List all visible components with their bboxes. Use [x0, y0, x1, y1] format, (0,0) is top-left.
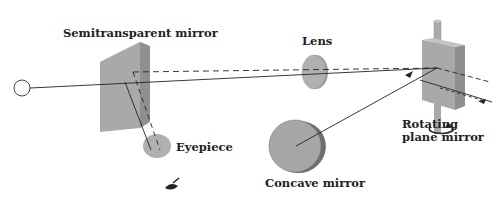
label-rotating-line2: plane mirror: [402, 131, 484, 144]
concave-mirror: [262, 113, 334, 181]
label-lens: Lens: [302, 35, 332, 48]
semitransparent-mirror: [100, 42, 150, 132]
eye-icon: [165, 178, 179, 190]
light-source-icon: [14, 80, 30, 96]
eyepiece: [143, 134, 171, 158]
label-eyepiece: Eyepiece: [176, 141, 233, 154]
lens: [302, 55, 328, 89]
label-semitransparent-mirror: Semitransparent mirror: [63, 27, 218, 40]
label-concave-mirror: Concave mirror: [265, 177, 365, 190]
